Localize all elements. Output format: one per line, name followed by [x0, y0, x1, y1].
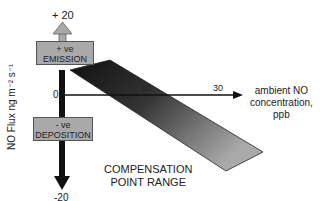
x-axis-arrowhead: [233, 91, 243, 99]
band-label: COMPENSATION POINT RANGE: [104, 163, 192, 189]
emission-box: + ve EMISSION: [36, 41, 94, 65]
y-tick-plus-20: + 20: [52, 9, 74, 21]
x-label-line2: concentration,: [250, 97, 313, 109]
x-label-line1: ambient NO: [250, 85, 313, 97]
y-axis-label: NO Flux ng m⁻² s⁻¹: [6, 64, 17, 150]
x-tick-30: 30: [213, 83, 223, 93]
emission-sign: + ve: [37, 44, 93, 54]
emission-label: EMISSION: [37, 54, 93, 64]
x-label-line3: ppb: [250, 109, 313, 121]
band-label-line1: COMPENSATION: [104, 163, 192, 176]
deposition-sign: - ve: [34, 120, 92, 130]
up-arrowhead: [53, 22, 72, 34]
y-tick-zero: 0: [53, 89, 59, 100]
band-label-line2: POINT RANGE: [104, 176, 192, 189]
x-tick-10: 10: [141, 83, 151, 93]
y-tick-minus-20: -20: [54, 192, 68, 201]
down-arrowhead: [54, 176, 70, 190]
compensation-band: [70, 60, 263, 171]
x-axis-label: ambient NO concentration, ppb: [250, 85, 313, 121]
deposition-label: DEPOSITION: [34, 130, 92, 140]
deposition-box: - ve DEPOSITION: [33, 117, 93, 141]
